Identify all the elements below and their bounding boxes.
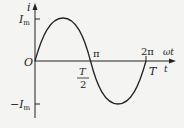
omega-t-label: ωt — [163, 47, 174, 57]
half-period-numerator: T — [79, 66, 87, 77]
neg-im-label: −Im — [10, 98, 31, 112]
sine-wave-diagram: i Im O −Im π 2π ωt T 2 T t — [0, 0, 184, 128]
y-axis-arrow-icon — [33, 3, 38, 10]
two-pi-label: 2π — [141, 46, 154, 57]
im-label: Im — [18, 13, 30, 27]
origin-label: O — [24, 56, 33, 69]
t-axis-label: t — [164, 64, 168, 74]
x-axis-arrow-icon — [169, 59, 176, 64]
y-axis-label: i — [27, 1, 31, 14]
half-period-denominator: 2 — [80, 79, 86, 90]
pi-label: π — [93, 48, 100, 59]
period-label: T — [149, 65, 158, 78]
